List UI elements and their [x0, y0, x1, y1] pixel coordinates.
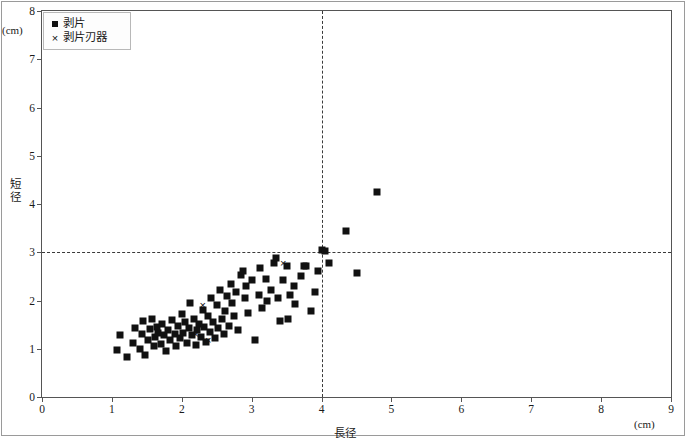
data-point-square [322, 248, 329, 255]
x-tick-9 [671, 397, 672, 402]
x-tick-label-4: 4 [319, 403, 325, 415]
data-point-square [208, 295, 215, 302]
data-point-square [229, 299, 236, 306]
legend-label-flake: 剥片 [63, 16, 85, 30]
data-point-square [262, 275, 269, 282]
data-point-square [287, 291, 294, 298]
data-point-square [259, 304, 266, 311]
x-tick-label-1: 1 [109, 403, 115, 415]
y-tick-label-7: 7 [29, 53, 35, 65]
data-point-square [315, 267, 322, 274]
y-tick-label-4: 4 [29, 198, 35, 210]
scatter-plot-figure: 砂田台遺跡 Ⅲ期 (cm) (cm) 短径 長径 012345678012345… [0, 0, 689, 440]
data-point-square [187, 299, 194, 306]
data-point-square [233, 288, 240, 295]
x-tick-label-8: 8 [598, 403, 604, 415]
data-point-square [255, 291, 262, 298]
data-point-square [325, 259, 332, 266]
data-point-square [264, 297, 271, 304]
data-point-square [311, 288, 318, 295]
legend-item-flake-blade: × 剥片刃器 [49, 30, 125, 45]
y-tick-1 [37, 349, 42, 350]
data-point-square [285, 315, 292, 322]
data-point-cross: × [278, 257, 289, 268]
legend-label-flake-blade: 剥片刃器 [63, 30, 107, 44]
x-tick-6 [461, 397, 462, 402]
data-point-square [297, 273, 304, 280]
y-tick-label-0: 0 [29, 391, 35, 403]
data-point-square [268, 286, 275, 293]
data-point-square [142, 351, 149, 358]
y-tick-6 [37, 108, 42, 109]
x-tick-1 [112, 397, 113, 402]
data-point-square [276, 317, 283, 324]
x-tick-4 [322, 397, 323, 402]
data-point-square [257, 264, 264, 271]
y-tick-label-8: 8 [29, 5, 35, 17]
x-tick-2 [182, 397, 183, 402]
data-point-square [163, 348, 170, 355]
data-point-square [148, 315, 155, 322]
x-tick-label-7: 7 [528, 403, 534, 415]
horizontal-reference-line [42, 252, 671, 253]
x-tick-label-9: 9 [668, 403, 674, 415]
data-point-square [220, 331, 227, 338]
x-tick-label-6: 6 [458, 403, 464, 415]
y-tick-5 [37, 156, 42, 157]
data-point-square [157, 340, 164, 347]
data-point-square [245, 309, 252, 316]
data-point-square [280, 277, 287, 284]
x-tick-label-2: 2 [179, 403, 185, 415]
data-point-square [173, 343, 180, 350]
data-point-square [303, 262, 310, 269]
data-point-square [219, 315, 226, 322]
data-point-square [353, 269, 360, 276]
data-point-square [184, 339, 191, 346]
data-point-cross: × [190, 329, 201, 340]
data-point-square [234, 327, 241, 334]
y-tick-7 [37, 59, 42, 60]
data-point-square [113, 347, 120, 354]
data-point-cross: × [197, 300, 208, 311]
data-point-square [374, 188, 381, 195]
data-point-square [275, 295, 282, 302]
y-axis-title: 短径 [8, 178, 22, 203]
data-point-square [164, 327, 171, 334]
y-tick-label-6: 6 [29, 102, 35, 114]
y-tick-3 [37, 252, 42, 253]
data-point-square [343, 227, 350, 234]
data-point-square [252, 337, 259, 344]
data-point-square [248, 277, 255, 284]
x-axis-title: 長径 [0, 424, 689, 440]
x-tick-7 [531, 397, 532, 402]
data-point-square [117, 332, 124, 339]
y-tick-4 [37, 204, 42, 205]
y-tick-label-1: 1 [29, 343, 35, 355]
data-point-cross: × [203, 335, 214, 346]
y-tick-label-2: 2 [29, 295, 35, 307]
data-point-square [241, 295, 248, 302]
data-point-square [129, 339, 136, 346]
data-point-square [192, 341, 199, 348]
y-tick-8 [37, 11, 42, 12]
data-point-square [290, 283, 297, 290]
x-tick-8 [601, 397, 602, 402]
data-point-square [227, 280, 234, 287]
data-point-square [131, 324, 138, 331]
cross-marker-icon: × [49, 30, 61, 45]
vertical-reference-line [322, 11, 323, 397]
data-point-square [140, 318, 147, 325]
data-point-square [226, 322, 233, 329]
x-tick-5 [391, 397, 392, 402]
data-point-square [178, 311, 185, 318]
data-point-square [231, 312, 238, 319]
y-tick-label-3: 3 [29, 246, 35, 258]
x-tick-0 [42, 397, 43, 402]
y-axis-unit: (cm) [2, 24, 23, 36]
data-point-square [240, 267, 247, 274]
square-marker-icon [49, 16, 61, 30]
data-point-square [217, 286, 224, 293]
data-point-square [150, 343, 157, 350]
data-point-square [124, 354, 131, 361]
y-tick-2 [37, 301, 42, 302]
